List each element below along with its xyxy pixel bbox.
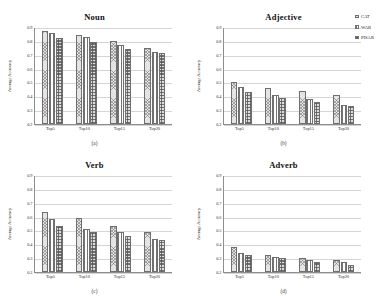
bar-war-top10 xyxy=(272,257,279,272)
bar-cat-top15 xyxy=(299,258,306,272)
x-axis-tick: Top15 xyxy=(303,274,314,279)
y-axis-tick: 0.7 xyxy=(216,54,224,58)
x-axis-tick: Top15 xyxy=(114,274,125,279)
bar-cat-top15 xyxy=(299,91,306,124)
bar-cat-top10 xyxy=(76,218,83,272)
y-axis-tick: 0.5 xyxy=(216,81,224,85)
bar-group xyxy=(42,176,63,272)
y-axis-tick: 0.4 xyxy=(27,95,35,99)
bar-war-top20 xyxy=(341,105,348,124)
plot-area: Average Accuracy0.20.30.40.50.60.70.80.9 xyxy=(223,28,361,125)
legend-swatch-icon xyxy=(355,25,359,29)
y-axis-tick: 0.3 xyxy=(216,109,224,113)
bar-group xyxy=(299,28,320,124)
x-axis-tick: Top10 xyxy=(79,274,90,279)
bar-group xyxy=(110,28,131,124)
y-axis-tick: 0.8 xyxy=(216,40,224,44)
bar-cat-top5 xyxy=(42,212,49,272)
legend-swatch-icon xyxy=(355,15,359,19)
bar-war-top15 xyxy=(117,45,124,124)
x-axis-ticks: Top5Top10Top15Top20 xyxy=(34,126,172,131)
bar-pisar-top5 xyxy=(56,226,63,272)
y-axis-tick: 0.5 xyxy=(27,81,35,85)
bar-cat-top5 xyxy=(231,247,238,272)
bar-pisar-top20 xyxy=(159,240,166,272)
y-axis-label: Average Accuracy xyxy=(7,60,12,92)
x-axis-tick: Top15 xyxy=(114,126,125,131)
bar-cat-top20 xyxy=(333,95,340,124)
panel-title: Noun xyxy=(0,12,189,22)
bar-pisar-top20 xyxy=(348,265,355,272)
bar-war-top20 xyxy=(341,262,348,272)
y-axis-tick: 0.9 xyxy=(216,174,224,178)
x-axis-tick: Top20 xyxy=(338,126,349,131)
bar-group xyxy=(333,176,354,272)
x-axis-tick: Top15 xyxy=(303,126,314,131)
chart-panel-verb: VerbAverage Accuracy0.20.30.40.50.60.70.… xyxy=(0,148,189,296)
x-axis-tick: Top20 xyxy=(149,274,160,279)
y-axis-tick: 0.4 xyxy=(216,243,224,247)
x-axis-tick: Top20 xyxy=(149,126,160,131)
chart-legend: CATWARPISAR xyxy=(355,14,374,40)
bar-groups xyxy=(35,28,172,124)
bar-group xyxy=(76,28,97,124)
bar-cat-top10 xyxy=(265,255,272,272)
bar-group xyxy=(76,176,97,272)
bar-cat-top10 xyxy=(76,35,83,124)
legend-item-pisar[interactable]: PISAR xyxy=(355,35,374,40)
bar-groups xyxy=(224,28,361,124)
plot-area: Average Accuracy0.20.30.40.50.60.70.80.9 xyxy=(34,176,172,273)
bar-pisar-top20 xyxy=(348,106,355,124)
bar-group xyxy=(265,28,286,124)
bar-pisar-top10 xyxy=(90,232,97,272)
y-axis-tick: 0.4 xyxy=(27,243,35,247)
bar-group xyxy=(231,176,252,272)
chart-panel-adverb: AdverbAverage Accuracy0.20.30.40.50.60.7… xyxy=(189,148,378,296)
y-axis-tick: 0.8 xyxy=(27,188,35,192)
y-axis-tick: 0.5 xyxy=(216,229,224,233)
panel-title: Adjective xyxy=(189,12,378,22)
bar-pisar-top15 xyxy=(125,236,132,272)
y-axis-tick: 0.9 xyxy=(216,26,224,30)
y-axis-tick: 0.6 xyxy=(27,215,35,219)
bar-group xyxy=(299,176,320,272)
legend-item-war[interactable]: WAR xyxy=(355,25,374,30)
y-axis-tick: 0.8 xyxy=(27,40,35,44)
bar-pisar-top5 xyxy=(245,92,252,124)
x-axis-tick: Top10 xyxy=(79,126,90,131)
x-axis-tick: Top5 xyxy=(46,126,55,131)
bar-war-top20 xyxy=(152,239,159,272)
panel-caption: (d) xyxy=(189,288,378,294)
bar-group xyxy=(144,28,165,124)
bar-war-top5 xyxy=(238,253,245,272)
x-axis-tick: Top10 xyxy=(268,126,279,131)
y-axis-tick: 0.6 xyxy=(216,215,224,219)
x-axis-ticks: Top5Top10Top15Top20 xyxy=(223,274,361,279)
y-axis-label: Average Accuracy xyxy=(196,60,201,92)
y-axis-label: Average Accuracy xyxy=(196,208,201,240)
bar-group xyxy=(110,176,131,272)
bar-pisar-top15 xyxy=(314,102,321,124)
bar-pisar-top10 xyxy=(279,98,286,124)
y-axis-tick: 0.4 xyxy=(216,95,224,99)
panel-caption: (a) xyxy=(0,140,189,146)
y-axis-tick: 0.3 xyxy=(216,257,224,261)
bar-cat-top5 xyxy=(42,31,49,124)
bar-groups xyxy=(35,176,172,272)
chart-panel-adjective: AdjectiveAverage Accuracy0.20.30.40.50.6… xyxy=(189,0,378,148)
bar-war-top10 xyxy=(272,95,279,124)
bar-cat-top5 xyxy=(231,82,238,124)
bar-war-top10 xyxy=(83,229,90,272)
legend-item-cat[interactable]: CAT xyxy=(355,14,374,19)
bar-cat-top20 xyxy=(144,232,151,272)
y-axis-tick: 0.7 xyxy=(27,202,35,206)
y-axis-label: Average Accuracy xyxy=(7,208,12,240)
panel-caption: (b) xyxy=(189,140,378,146)
bar-cat-top15 xyxy=(110,41,117,124)
y-axis-tick: 0.3 xyxy=(27,257,35,261)
bar-cat-top15 xyxy=(110,226,117,272)
y-axis-tick: 0.6 xyxy=(216,67,224,71)
bar-war-top5 xyxy=(49,33,56,124)
bar-group xyxy=(265,176,286,272)
x-axis-ticks: Top5Top10Top15Top20 xyxy=(34,274,172,279)
